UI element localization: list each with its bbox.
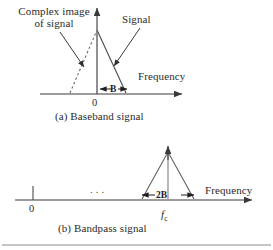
complex-image-line2: of signal xyxy=(34,17,73,29)
bandpass-frequency-label: Frequency xyxy=(205,184,252,196)
bandpass-bandwidth-label: 2B xyxy=(156,190,167,201)
baseband-bandwidth-label: B xyxy=(110,84,116,95)
baseband-frequency-label: Frequency xyxy=(138,70,185,82)
caption-baseband: (a) Baseband signal xyxy=(55,110,144,122)
figure-canvas xyxy=(0,0,273,250)
baseband-origin-label: 0 xyxy=(92,97,97,109)
complex-image-line1: Complex image xyxy=(18,5,89,17)
caption-bandpass: (b) Bandpass signal xyxy=(58,222,147,234)
complex-image-label: Complex image of signal xyxy=(6,5,102,30)
figure-root: Complex image of signal Signal Frequency… xyxy=(0,0,273,250)
signal-label: Signal xyxy=(122,13,151,25)
bandpass-ellipsis: ... xyxy=(90,183,107,195)
signal-pointer xyxy=(114,28,140,66)
baseband-complex-image-edge xyxy=(70,30,97,93)
bandpass-origin-label: 0 xyxy=(29,203,34,215)
carrier-frequency-label: fc xyxy=(161,208,168,224)
carrier-frequency-subscript: c xyxy=(164,214,167,223)
complex-image-pointer xyxy=(60,32,84,67)
